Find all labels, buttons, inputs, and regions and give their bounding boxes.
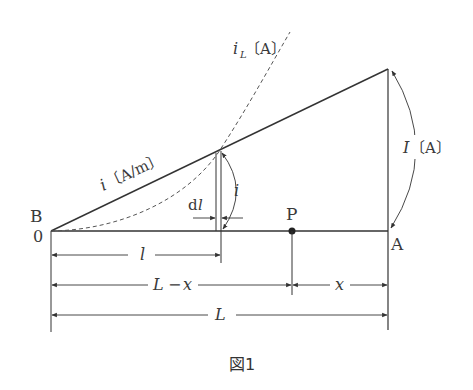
label-iL-unit: 〔A〕: [245, 40, 286, 58]
label-iL-var: i: [233, 39, 238, 58]
label-i-small: i: [234, 181, 239, 200]
dim-label-L: L: [214, 305, 226, 324]
figure-caption: 図1: [229, 355, 255, 374]
label-I-var: I: [402, 138, 410, 157]
label-dl-d: d: [188, 196, 198, 214]
label-A: A: [390, 234, 404, 254]
iL-dashed-curve: [51, 32, 290, 231]
label-i-density-unit: 〔A/m〕: [103, 150, 165, 192]
current-density-line: [51, 69, 388, 231]
label-I-unit: 〔A〕: [410, 139, 451, 157]
label-dl-l: l: [198, 196, 203, 214]
label-B: B: [30, 206, 43, 226]
dim-label-x: x: [335, 275, 344, 294]
dim-label-Lx-op: −: [168, 275, 181, 294]
label-origin: 0: [33, 227, 43, 246]
dim-label-l: l: [140, 245, 145, 264]
dim-label-Lx-L: L: [152, 275, 164, 294]
label-P: P: [286, 204, 297, 224]
dim-label-Lx-x: x: [183, 275, 192, 294]
distributed-load-diagram: B 0 A P i L 〔A〕 i 〔A/m〕 I 〔A〕 i d l l L …: [0, 0, 473, 390]
